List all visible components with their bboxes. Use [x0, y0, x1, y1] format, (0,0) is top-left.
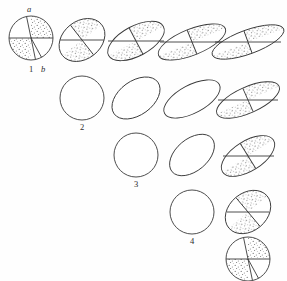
row-5-group	[226, 237, 270, 281]
label-4: 4	[190, 236, 195, 246]
label-2: 2	[80, 122, 84, 132]
label-1: 1	[29, 64, 33, 74]
deformation-diagram-svg: a 1 b	[0, 0, 287, 281]
row-3-group: 3	[114, 126, 287, 189]
shape-row1-circle	[9, 16, 53, 60]
shape-row3-circle	[114, 133, 158, 177]
shape-row3-ellipse-2	[162, 126, 222, 184]
shape-row4-circle	[170, 190, 214, 234]
shape-row2-ellipse-4	[212, 74, 287, 125]
shape-row1-ellipse-2	[51, 10, 114, 71]
label-3: 3	[134, 179, 138, 189]
shape-row1-ellipse-3	[102, 13, 171, 69]
figure-root: a 1 b	[0, 0, 287, 281]
row-4-group: 4	[170, 181, 287, 246]
shape-row2-ellipse-2	[104, 68, 168, 127]
shape-row3-ellipse-3	[215, 127, 287, 184]
label-b: b	[41, 64, 45, 74]
label-a: a	[27, 4, 31, 14]
shape-row5-circle	[226, 237, 270, 281]
shape-row2-ellipse-3	[158, 72, 226, 126]
shape-row4-ellipse-2	[217, 181, 287, 242]
row-2-group: 2	[60, 68, 287, 132]
row-1-group: a 1 b	[9, 4, 287, 74]
shape-row2-circle	[60, 76, 104, 120]
